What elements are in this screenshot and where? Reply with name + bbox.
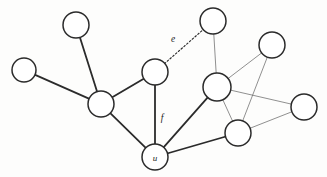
graph-node (142, 59, 168, 85)
graph-canvas: uef (0, 0, 327, 177)
labels-layer: uef (153, 34, 175, 163)
graph-edge (223, 99, 233, 121)
graph-node (63, 12, 89, 38)
graph-node (88, 91, 114, 117)
graph-edge (112, 78, 144, 97)
graph-node-label: u (153, 153, 158, 163)
graph-node (200, 8, 226, 34)
graph-edge (230, 90, 291, 104)
edges-layer (35, 29, 293, 153)
graph-node (259, 32, 285, 58)
graph-edge (250, 112, 293, 129)
graph-edge (110, 113, 146, 148)
graph-edge (163, 97, 208, 147)
graph-edge (167, 137, 226, 154)
graph-edge (243, 57, 268, 122)
graph-edge (80, 37, 97, 92)
edge-label-e: e (171, 34, 175, 44)
graph-edge (214, 34, 216, 74)
graph-node (225, 120, 251, 146)
graph-figure: uef (0, 0, 327, 177)
graph-edge (35, 75, 90, 99)
graph-edge (228, 53, 262, 79)
graph-node (12, 58, 36, 82)
graph-node (291, 94, 317, 120)
edge-label-f: f (161, 113, 165, 123)
graph-node (203, 73, 231, 101)
